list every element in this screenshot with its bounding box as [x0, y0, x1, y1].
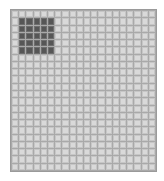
- grid-cell[interactable]: [77, 127, 83, 133]
- grid-cell[interactable]: [134, 18, 140, 24]
- grid-cell[interactable]: [98, 127, 104, 133]
- grid-cell[interactable]: [91, 26, 97, 32]
- grid-cell[interactable]: [70, 84, 76, 90]
- grid-cell[interactable]: [84, 69, 90, 75]
- grid-cell[interactable]: [127, 106, 133, 112]
- grid-cell[interactable]: [26, 127, 32, 133]
- grid-cell[interactable]: [134, 11, 140, 17]
- grid-cell[interactable]: [19, 149, 25, 155]
- grid-cell[interactable]: [127, 33, 133, 39]
- grid-cell[interactable]: [41, 156, 47, 162]
- grid-cell[interactable]: [127, 69, 133, 75]
- grid-cell[interactable]: [142, 106, 148, 112]
- grid-cell[interactable]: [142, 40, 148, 46]
- grid-cell[interactable]: [70, 120, 76, 126]
- grid-cell-selected[interactable]: [34, 26, 40, 32]
- grid-cell[interactable]: [48, 62, 54, 68]
- grid-cell-selected[interactable]: [19, 18, 25, 24]
- grid-cell[interactable]: [12, 47, 18, 53]
- grid-cell[interactable]: [19, 106, 25, 112]
- grid-cell[interactable]: [91, 120, 97, 126]
- grid-cell[interactable]: [12, 156, 18, 162]
- grid-cell[interactable]: [12, 164, 18, 170]
- grid-cell[interactable]: [55, 26, 61, 32]
- grid-cell[interactable]: [127, 18, 133, 24]
- grid-cell[interactable]: [98, 120, 104, 126]
- grid-cell[interactable]: [120, 149, 126, 155]
- grid-cell[interactable]: [134, 84, 140, 90]
- grid-cell[interactable]: [12, 135, 18, 141]
- grid-cell[interactable]: [19, 69, 25, 75]
- grid-cell[interactable]: [113, 69, 119, 75]
- grid-cell[interactable]: [34, 98, 40, 104]
- grid-cell[interactable]: [98, 164, 104, 170]
- grid-cell[interactable]: [34, 142, 40, 148]
- grid-cell-selected[interactable]: [19, 40, 25, 46]
- grid-cell[interactable]: [84, 55, 90, 61]
- grid-cell[interactable]: [41, 113, 47, 119]
- grid-cell[interactable]: [77, 149, 83, 155]
- grid-cell[interactable]: [106, 47, 112, 53]
- grid-cell[interactable]: [84, 62, 90, 68]
- grid-cell[interactable]: [19, 98, 25, 104]
- grid-cell[interactable]: [142, 69, 148, 75]
- grid-cell[interactable]: [113, 106, 119, 112]
- grid-cell[interactable]: [26, 142, 32, 148]
- grid-cell[interactable]: [34, 76, 40, 82]
- grid-cell[interactable]: [127, 84, 133, 90]
- grid-cell[interactable]: [142, 164, 148, 170]
- grid-cell[interactable]: [48, 120, 54, 126]
- grid-cell[interactable]: [84, 120, 90, 126]
- grid-cell[interactable]: [149, 26, 155, 32]
- grid-cell[interactable]: [106, 113, 112, 119]
- grid-cell[interactable]: [62, 69, 68, 75]
- grid-cell[interactable]: [70, 127, 76, 133]
- grid-cell[interactable]: [84, 127, 90, 133]
- grid-cell[interactable]: [120, 98, 126, 104]
- grid-cell[interactable]: [19, 142, 25, 148]
- grid-cell[interactable]: [113, 135, 119, 141]
- grid-cell[interactable]: [41, 76, 47, 82]
- grid-cell[interactable]: [12, 84, 18, 90]
- grid-cell[interactable]: [142, 98, 148, 104]
- grid-cell[interactable]: [12, 106, 18, 112]
- grid-cell[interactable]: [113, 33, 119, 39]
- grid-cell[interactable]: [77, 47, 83, 53]
- grid-cell[interactable]: [62, 76, 68, 82]
- grid-cell[interactable]: [113, 84, 119, 90]
- grid-cell[interactable]: [62, 84, 68, 90]
- grid-cell[interactable]: [91, 149, 97, 155]
- grid-cell[interactable]: [120, 33, 126, 39]
- grid-cell[interactable]: [120, 26, 126, 32]
- grid-cell[interactable]: [41, 120, 47, 126]
- grid-cell[interactable]: [98, 26, 104, 32]
- grid-cell[interactable]: [26, 164, 32, 170]
- grid-cell-selected[interactable]: [19, 33, 25, 39]
- grid-cell-selected[interactable]: [26, 18, 32, 24]
- grid-cell[interactable]: [77, 40, 83, 46]
- grid-cell[interactable]: [62, 62, 68, 68]
- grid-cell[interactable]: [26, 69, 32, 75]
- grid-cell[interactable]: [41, 91, 47, 97]
- grid-cell[interactable]: [12, 142, 18, 148]
- grid-cell[interactable]: [34, 84, 40, 90]
- grid-cell[interactable]: [106, 164, 112, 170]
- grid-cell[interactable]: [34, 113, 40, 119]
- grid-cell[interactable]: [98, 142, 104, 148]
- grid-cell[interactable]: [134, 91, 140, 97]
- grid-cell[interactable]: [26, 106, 32, 112]
- grid-cell[interactable]: [149, 135, 155, 141]
- grid-cell[interactable]: [113, 156, 119, 162]
- grid-cell[interactable]: [106, 91, 112, 97]
- grid-cell[interactable]: [127, 11, 133, 17]
- grid-cell[interactable]: [34, 149, 40, 155]
- grid-cell[interactable]: [127, 149, 133, 155]
- grid-cell[interactable]: [12, 55, 18, 61]
- grid-cell[interactable]: [120, 11, 126, 17]
- grid-cell[interactable]: [106, 127, 112, 133]
- grid-cell[interactable]: [70, 156, 76, 162]
- grid-cell[interactable]: [84, 164, 90, 170]
- grid-cell[interactable]: [142, 62, 148, 68]
- grid-cell[interactable]: [55, 69, 61, 75]
- grid-cell-selected[interactable]: [26, 26, 32, 32]
